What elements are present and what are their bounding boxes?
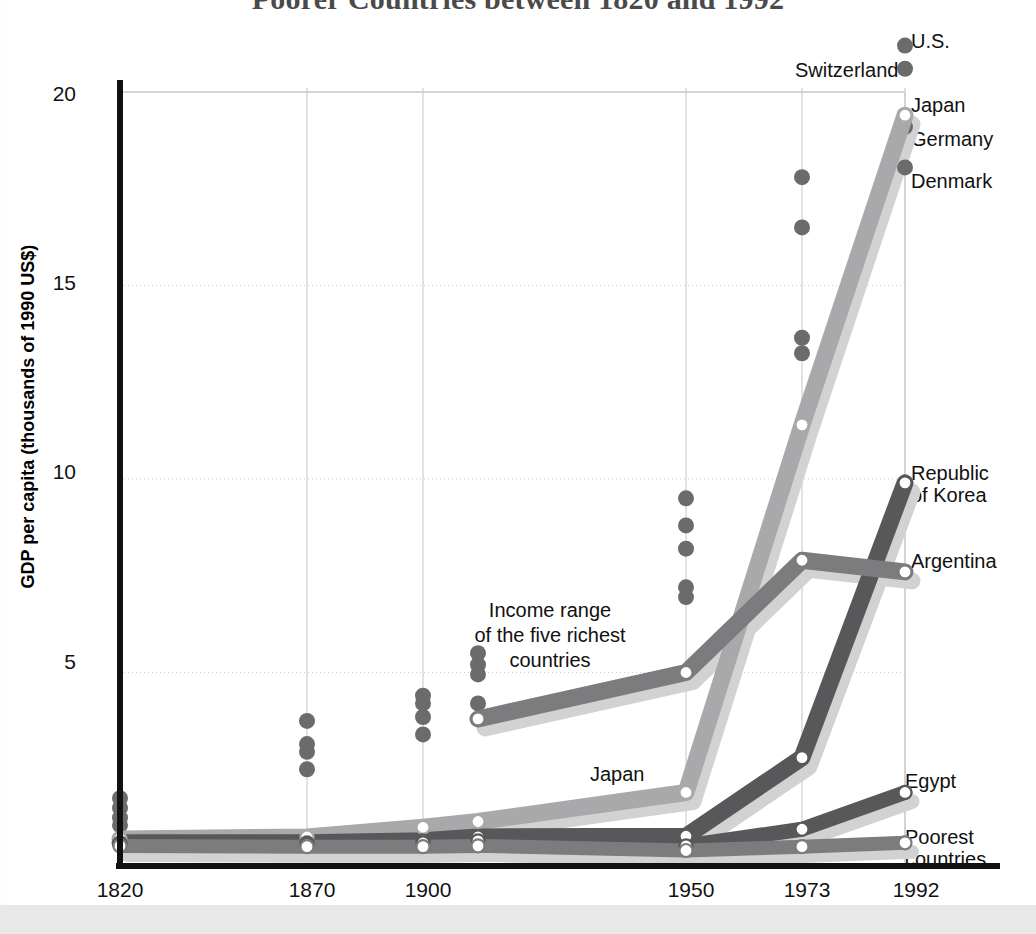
series-marker-poorest-countries-1870 [301, 840, 314, 853]
line-shadow-layer [127, 124, 912, 859]
richest-dot-1900-2 [415, 709, 431, 725]
series-line-poorest-countries [120, 843, 905, 851]
series-shadow-republic-of-korea [127, 492, 912, 852]
series-marker-republic-of-korea-1992 [899, 476, 912, 489]
series-marker-japan-1992 [899, 109, 912, 122]
series-marker-poorest-countries-1913 [472, 839, 485, 852]
series-marker-argentina-1973 [796, 554, 809, 567]
series-shadow-japan [127, 124, 912, 848]
plot-canvas [0, 0, 1036, 934]
series-marker-egypt-1973 [796, 823, 809, 836]
richest-dot-1973-0 [794, 169, 810, 185]
series-marker-argentina-1992 [899, 565, 912, 578]
richest-dot-1900-3 [415, 726, 431, 742]
richest-dot-1992-0 [897, 38, 913, 54]
richest-dot-1950-4 [678, 589, 694, 605]
richest-dot-1950-0 [678, 490, 694, 506]
figure-bottom-bar [0, 905, 1036, 934]
richest-dot-1973-1 [794, 219, 810, 235]
series-marker-japan-1973 [796, 418, 809, 431]
series-marker-poorest-countries-1973 [796, 840, 809, 853]
series-marker-republic-of-korea-1973 [796, 751, 809, 764]
chart-figure: Poorer Countries between 1820 and 1992 G… [0, 0, 1036, 934]
richest-dot-1992-1 [897, 61, 913, 77]
richest-dot-1950-2 [678, 541, 694, 557]
richest-dot-1913-2 [470, 666, 486, 682]
series-marker-argentina-1913 [472, 712, 485, 725]
series-marker-japan-1950 [680, 786, 693, 799]
richest-dot-1870-3 [299, 761, 315, 777]
richest-dot-1870-0 [299, 713, 315, 729]
series-marker-japan-1913 [472, 815, 485, 828]
richest-dot-1870-2 [299, 744, 315, 760]
series-line-layer [120, 115, 905, 850]
series-marker-poorest-countries-1992 [899, 836, 912, 849]
series-marker-japan-1900 [417, 821, 430, 834]
richest-dot-1950-1 [678, 517, 694, 533]
series-marker-argentina-1950 [680, 666, 693, 679]
richest-dot-1973-2 [794, 330, 810, 346]
richest-dot-1992-3 [897, 159, 913, 175]
series-marker-egypt-1992 [899, 786, 912, 799]
richest-dot-1973-3 [794, 345, 810, 361]
axis-layer [116, 80, 1000, 868]
series-marker-poorest-countries-1950 [680, 844, 693, 857]
series-marker-poorest-countries-1900 [417, 840, 430, 853]
